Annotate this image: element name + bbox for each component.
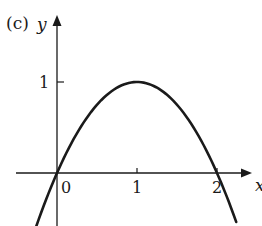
y-axis-arrow-icon [53,15,62,26]
x-tick-label: 1 [132,178,142,197]
x-axis-arrow-icon [241,169,252,178]
tick-marks: 0121 [39,73,222,197]
parabola-chart: (c) 0121 x y [0,0,262,226]
x-tick-label: 0 [61,178,71,197]
parabola-curve [36,82,236,226]
y-axis-label: y [36,14,47,34]
panel-label: (c) [6,13,29,33]
y-tick-label: 1 [39,73,49,92]
x-axis-label: x [255,175,262,195]
